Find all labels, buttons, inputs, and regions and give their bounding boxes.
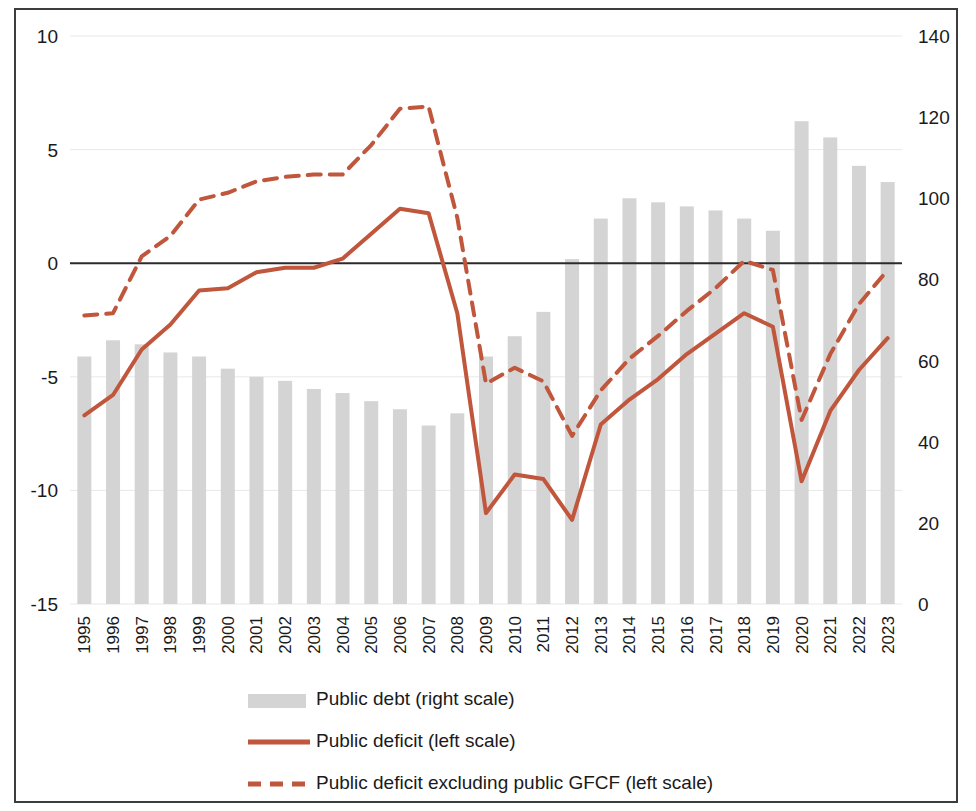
left-axis-tick-label: -10: [31, 480, 58, 501]
x-axis-tick-label: 2020: [793, 616, 812, 654]
x-axis-tick-label: 2014: [620, 616, 639, 654]
bar: [594, 219, 608, 604]
left-axis-tick-label: 0: [47, 253, 58, 274]
x-axis-tick-label: 2006: [391, 616, 410, 654]
bar: [278, 381, 292, 604]
right-axis-tick-label: 20: [918, 513, 939, 534]
chart-frame: 1050-5-10-151401201008060402001995199619…: [14, 8, 958, 803]
bar: [536, 312, 550, 604]
legend-label: Public deficit excluding public GFCF (le…: [316, 772, 713, 793]
x-axis-tick-label: 2022: [850, 616, 869, 654]
bar: [852, 166, 866, 604]
x-axis-tick-label: 2016: [678, 616, 697, 654]
bar: [709, 210, 723, 604]
bar: [565, 259, 579, 604]
x-axis-tick-label: 2012: [563, 616, 582, 654]
bar: [221, 369, 235, 604]
bar: [192, 357, 206, 604]
left-axis-tick-label: 10: [37, 26, 58, 47]
legend-item: Public deficit excluding public GFCF (le…: [248, 772, 713, 793]
bar: [364, 401, 378, 604]
bar: [737, 219, 751, 604]
right-axis-tick-label: 100: [918, 188, 950, 209]
x-axis-tick-label: 2008: [448, 616, 467, 654]
x-axis-tick-label: 1998: [161, 616, 180, 654]
x-axis-tick-label: 2011: [534, 616, 553, 653]
bar: [450, 413, 464, 604]
legend-swatch-bar: [248, 694, 306, 708]
right-axis-tick-label: 80: [918, 269, 939, 290]
x-axis-tick-label: 2023: [879, 616, 898, 654]
left-axis-tick-label: -5: [41, 367, 58, 388]
right-axis-tick-label: 40: [918, 432, 939, 453]
left-axis-tick-label: -15: [31, 594, 58, 615]
right-axis-tick-label: 120: [918, 107, 950, 128]
legend-label: Public debt (right scale): [316, 688, 515, 709]
bar: [106, 340, 120, 604]
bar: [249, 377, 263, 604]
x-axis-tick-label: 2017: [707, 616, 726, 654]
x-axis-tick-label: 1996: [104, 616, 123, 654]
bar: [163, 352, 177, 604]
x-axis-tick-label: 2002: [276, 616, 295, 654]
x-axis-tick-label: 1997: [133, 616, 152, 654]
bar: [135, 344, 149, 604]
bar: [336, 393, 350, 604]
x-axis-tick-label: 2010: [506, 616, 525, 654]
legend-label: Public deficit (left scale): [316, 730, 516, 751]
bar: [823, 137, 837, 604]
bar: [766, 231, 780, 604]
x-axis-tick-label: 1995: [75, 616, 94, 654]
right-axis-tick-label: 140: [918, 26, 950, 47]
x-axis-tick-label: 2013: [592, 616, 611, 654]
chart-plot-area: 1050-5-10-151401201008060402001995199619…: [16, 10, 960, 805]
bar: [680, 206, 694, 604]
bar: [508, 336, 522, 604]
x-axis-tick-label: 2005: [362, 616, 381, 654]
x-axis-tick-label: 2015: [649, 616, 668, 654]
bar: [881, 182, 895, 604]
x-axis-tick-label: 2004: [334, 616, 353, 654]
x-axis-tick-label: 2019: [764, 616, 783, 654]
bar: [393, 409, 407, 604]
bar: [77, 357, 91, 604]
x-axis-tick-label: 2003: [305, 616, 324, 654]
x-axis-tick-label: 1999: [190, 616, 209, 654]
bar: [422, 425, 436, 604]
right-axis-tick-label: 0: [918, 594, 929, 615]
bar-series-public-debt: [77, 121, 894, 604]
x-axis-tick-label: 2021: [821, 616, 840, 654]
bar: [795, 121, 809, 604]
left-axis-tick-label: 5: [47, 140, 58, 161]
right-axis-tick-label: 60: [918, 351, 939, 372]
chart-svg: 1050-5-10-151401201008060402001995199619…: [16, 10, 960, 805]
x-axis-tick-label: 2001: [247, 616, 266, 654]
legend-item: Public deficit (left scale): [248, 730, 516, 751]
bar: [307, 389, 321, 604]
x-axis-tick-label: 2000: [219, 616, 238, 654]
x-axis-tick-label: 2009: [477, 616, 496, 654]
x-axis-tick-label: 2018: [735, 616, 754, 654]
legend-item: Public debt (right scale): [248, 688, 515, 709]
x-axis-tick-label: 2007: [420, 616, 439, 654]
